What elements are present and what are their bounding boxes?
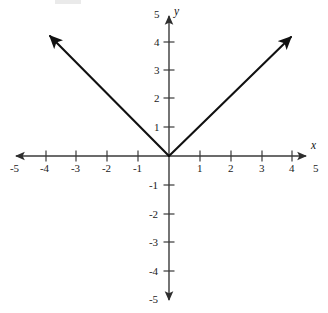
x-tick-label-5: 5 — [313, 163, 318, 174]
y-tick-label-minus-3: -3 — [149, 237, 158, 248]
y-tick-label-5: 5 — [154, 9, 159, 20]
y-tick-label-minus-2: -2 — [149, 209, 158, 220]
y-tick-label-1: 1 — [154, 122, 159, 133]
y-tick-label-minus-1: -1 — [149, 180, 158, 191]
y-tick-label-4: 4 — [154, 37, 159, 48]
y-tick-label-2: 2 — [154, 93, 159, 104]
graph-figure: -5 -4 -3 -2 -1 1 2 3 4 5 5 4 3 2 1 -1 -2… — [0, 0, 328, 313]
x-tick-label-minus-3: -3 — [71, 163, 80, 174]
coordinate-plane-svg — [0, 0, 328, 313]
curve-left-branch — [50, 36, 169, 156]
x-tick-label-minus-5: -5 — [10, 163, 19, 174]
x-tick-label-1: 1 — [197, 163, 202, 174]
y-tick-label-3: 3 — [154, 65, 159, 76]
y-tick-label-minus-4: -4 — [149, 266, 158, 277]
x-tick-label-minus-4: -4 — [40, 163, 49, 174]
curve-right-branch — [169, 37, 291, 156]
y-axis-label: y — [174, 6, 179, 18]
y-tick-label-minus-5: -5 — [149, 294, 158, 305]
x-tick-label-3: 3 — [259, 163, 264, 174]
x-tick-label-minus-2: -2 — [102, 163, 111, 174]
absolute-value-curve — [50, 36, 291, 156]
y-axis — [164, 16, 175, 300]
x-tick-label-minus-1: -1 — [133, 163, 142, 174]
x-tick-label-4: 4 — [289, 163, 294, 174]
x-tick-label-2: 2 — [228, 163, 233, 174]
x-axis — [16, 151, 306, 162]
x-axis-label: x — [311, 140, 316, 152]
